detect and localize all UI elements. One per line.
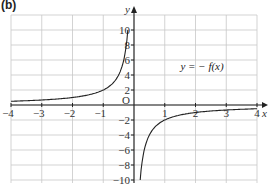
equation-label: y = − f(x) (179, 60, 224, 73)
function-graph: yx −4−3−2−11234108642−2−4−6−8−10O y = − … (0, 0, 269, 186)
svg-text:−10: −10 (113, 174, 131, 186)
svg-text:1: 1 (162, 107, 168, 119)
svg-text:−6: −6 (118, 144, 130, 156)
svg-text:−2: −2 (64, 107, 76, 119)
svg-text:y: y (124, 3, 130, 15)
svg-text:−3: −3 (33, 107, 45, 119)
svg-text:−4: −4 (118, 129, 130, 141)
svg-text:10: 10 (119, 24, 131, 36)
svg-text:x: x (261, 107, 267, 119)
svg-text:O: O (122, 94, 130, 106)
svg-text:4: 4 (125, 69, 131, 81)
svg-text:3: 3 (224, 107, 230, 119)
svg-text:−4: −4 (2, 107, 14, 119)
svg-text:−2: −2 (118, 114, 130, 126)
svg-text:6: 6 (125, 54, 131, 66)
svg-text:−1: −1 (94, 107, 106, 119)
svg-text:−8: −8 (118, 159, 130, 171)
